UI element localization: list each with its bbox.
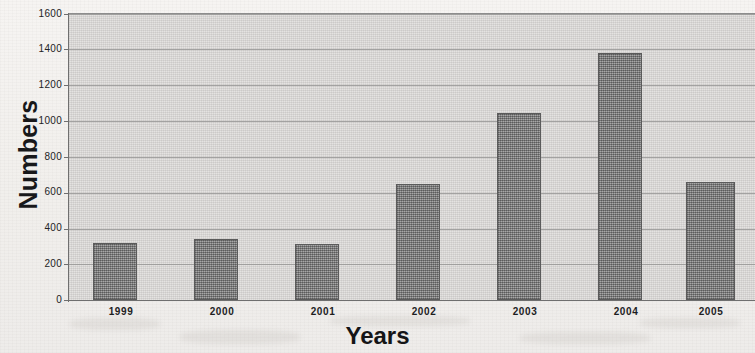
gridline-0-baseline xyxy=(69,300,755,301)
x-tick-label-2004: 2004 xyxy=(590,306,662,317)
x-tick-label-2001: 2001 xyxy=(287,306,359,317)
gridline-1600 xyxy=(69,14,755,15)
x-tick-label-2000: 2000 xyxy=(186,306,258,317)
y-tick-label-600: 600 xyxy=(2,186,62,197)
bar-2005 xyxy=(686,182,735,300)
gridline-800 xyxy=(69,157,755,158)
y-tick-label-200: 200 xyxy=(2,258,62,269)
y-tick-label-800: 800 xyxy=(2,151,62,162)
y-tick-1400 xyxy=(64,49,69,50)
y-tick-0 xyxy=(64,300,69,301)
bar-2002 xyxy=(396,184,440,300)
plot-area xyxy=(69,13,755,301)
y-tick-200 xyxy=(64,264,69,265)
bar-2001 xyxy=(295,244,339,301)
bar-1999 xyxy=(93,243,137,300)
y-tick-label-1400: 1400 xyxy=(2,43,62,54)
gridline-1400 xyxy=(69,49,755,50)
y-tick-label-400: 400 xyxy=(2,222,62,233)
x-tick-label-1999: 1999 xyxy=(85,306,157,317)
y-tick-400 xyxy=(64,229,69,230)
gridline-1000 xyxy=(69,121,755,122)
y-tick-1200 xyxy=(64,85,69,86)
x-tick-label-2003: 2003 xyxy=(489,306,561,317)
bar-2003 xyxy=(497,113,541,300)
y-tick-1600 xyxy=(64,14,69,15)
x-tick-label-2002: 2002 xyxy=(388,306,460,317)
x-tick-label-2005: 2005 xyxy=(675,306,747,317)
y-tick-label-1200: 1200 xyxy=(2,79,62,90)
bar-2004 xyxy=(598,53,642,300)
y-tick-800 xyxy=(64,157,69,158)
y-tick-600 xyxy=(64,193,69,194)
y-tick-label-1000: 1000 xyxy=(2,115,62,126)
y-tick-label-1600: 1600 xyxy=(2,8,62,19)
bar-2000 xyxy=(194,239,238,300)
y-tick-label-0: 0 xyxy=(2,294,62,305)
x-axis-title: Years xyxy=(0,322,755,350)
gridline-1200 xyxy=(69,85,755,86)
y-tick-1000 xyxy=(64,121,69,122)
